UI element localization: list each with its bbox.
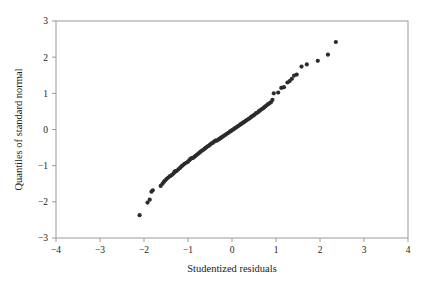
y-tick-label: −2 (38, 197, 48, 207)
x-tick-label: −2 (139, 245, 149, 255)
data-point (326, 53, 330, 57)
y-tick-label: 2 (43, 53, 48, 63)
x-tick-label: −4 (51, 245, 61, 255)
x-tick-label: −1 (183, 245, 193, 255)
x-tick-label: 3 (362, 245, 367, 255)
data-point (270, 98, 274, 102)
qq-plot-canvas: −4−3−2−101234 −3−2−10123 Studentized res… (0, 0, 425, 285)
qq-plot-figure: −4−3−2−101234 −3−2−10123 Studentized res… (0, 0, 425, 285)
data-point (282, 85, 286, 89)
y-tick-label: −3 (38, 233, 48, 243)
x-tick-label: 2 (318, 245, 323, 255)
x-tick-label: −3 (95, 245, 105, 255)
y-tick-label: 3 (43, 16, 48, 26)
data-point (299, 64, 303, 68)
x-tick-label: 1 (274, 245, 279, 255)
data-point (151, 188, 155, 192)
y-axis-title: Quantiles of standard normal (13, 68, 24, 190)
data-point (305, 62, 309, 66)
data-point (148, 198, 152, 202)
x-axis-title: Studentized residuals (187, 263, 277, 274)
data-point (138, 213, 142, 217)
y-tick-label: 1 (43, 89, 48, 99)
y-tick-label: −1 (38, 161, 48, 171)
x-tick-label: 4 (406, 245, 411, 255)
y-tick-label: 0 (43, 125, 48, 135)
data-point (316, 59, 320, 63)
data-point (276, 91, 280, 95)
data-point (272, 91, 276, 95)
data-point (334, 40, 338, 44)
data-point (295, 72, 299, 76)
x-tick-label: 0 (230, 245, 235, 255)
